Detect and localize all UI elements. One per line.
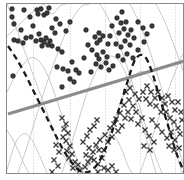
data-point-cross: [141, 90, 145, 94]
data-point-cross: [144, 97, 148, 101]
data-point-circle: [124, 20, 129, 25]
data-point-cross: [83, 165, 87, 169]
data-point-circle: [72, 80, 77, 85]
data-point-cross: [153, 96, 157, 100]
data-point-circle: [104, 61, 109, 66]
data-point-cross: [81, 140, 85, 144]
data-point-cross: [97, 148, 101, 152]
data-point-cross: [57, 150, 61, 154]
data-point-cross: [54, 143, 58, 147]
data-point-circle: [90, 48, 95, 53]
data-point-circle: [129, 28, 134, 33]
data-point-cross: [165, 136, 169, 140]
data-point-cross: [92, 124, 96, 128]
data-point-circle: [142, 40, 147, 45]
data-point-circle: [61, 67, 66, 72]
data-point-cross: [145, 84, 149, 88]
data-point-circle: [107, 68, 112, 73]
data-point-circle: [122, 27, 127, 32]
data-point-circle: [47, 6, 52, 11]
data-point-cross: [110, 164, 114, 168]
data-point-circle: [131, 56, 136, 61]
contour-curve-2: [7, 58, 84, 173]
data-point-cross: [148, 102, 152, 106]
data-point-circle: [36, 12, 41, 17]
data-point-circle: [120, 10, 125, 15]
data-point-cross: [120, 124, 124, 128]
data-point-circle: [16, 39, 21, 44]
data-point-circle: [105, 55, 110, 60]
data-point-circle: [128, 43, 133, 48]
data-point-circle: [99, 65, 104, 70]
data-point-cross: [95, 118, 99, 122]
data-point-circle: [12, 22, 17, 27]
data-point-cross: [167, 144, 171, 148]
data-point-circle: [34, 39, 39, 44]
data-point-circle: [141, 26, 146, 31]
data-point-cross: [122, 103, 126, 107]
data-point-circle: [101, 34, 106, 39]
data-point-circle: [119, 45, 124, 50]
data-point-cross: [170, 100, 174, 104]
data-point-circle: [11, 74, 16, 79]
data-point-cross: [127, 98, 131, 102]
data-point-circle: [10, 7, 15, 12]
data-point-circle: [119, 21, 124, 26]
data-point-circle: [45, 11, 50, 16]
data-point-cross: [129, 117, 133, 121]
data-point-cross: [149, 90, 153, 94]
data-point-cross: [134, 110, 138, 114]
data-point-circle: [125, 52, 130, 57]
data-point-circle: [132, 36, 137, 41]
data-point-circle: [22, 8, 27, 13]
data-point-circle: [121, 58, 126, 63]
data-point-cross: [131, 104, 135, 108]
data-point-cross: [85, 134, 89, 138]
data-point-cross: [176, 100, 180, 104]
data-point-circle: [39, 7, 44, 12]
data-point-circle: [101, 50, 106, 55]
data-point-circle: [94, 62, 99, 67]
data-point-cross: [136, 122, 140, 126]
data-point-circle: [117, 31, 122, 36]
data-point-circle: [58, 22, 63, 27]
data-point-circle: [40, 44, 45, 49]
data-point-circle: [145, 32, 150, 37]
data-point-cross: [152, 140, 156, 144]
data-point-circle: [28, 15, 33, 20]
data-point-circle: [31, 24, 36, 29]
scatter-plot-figure: [0, 0, 184, 180]
data-point-cross: [178, 132, 182, 136]
data-point-cross: [123, 116, 127, 120]
data-point-cross: [87, 146, 91, 150]
data-point-circle: [108, 34, 113, 39]
data-point-cross: [154, 104, 158, 108]
data-point-cross: [142, 144, 146, 148]
data-point-circle: [55, 65, 60, 70]
data-point-cross: [84, 153, 88, 157]
data-point-circle: [53, 31, 58, 36]
data-point-circle: [126, 33, 131, 38]
data-point-circle: [97, 57, 102, 62]
data-point-circle: [136, 20, 141, 25]
data-point-cross: [56, 164, 60, 168]
data-point-circle: [150, 24, 155, 29]
data-point-circle: [111, 64, 116, 69]
data-point-circle: [106, 42, 111, 47]
data-point-circle: [66, 69, 71, 74]
data-point-circle: [64, 29, 69, 34]
data-point-circle: [115, 16, 120, 21]
data-point-circle: [21, 41, 26, 46]
data-point-cross: [116, 129, 120, 133]
data-point-circle: [84, 28, 89, 33]
data-point-circle: [50, 44, 55, 49]
data-point-cross: [61, 135, 65, 139]
data-point-cross: [126, 110, 130, 114]
data-point-cross: [179, 110, 183, 114]
data-point-circle: [93, 35, 98, 40]
plot-canvas: [0, 0, 184, 180]
data-point-circle: [77, 71, 82, 76]
data-point-circle: [29, 35, 34, 40]
data-point-cross: [172, 120, 176, 124]
data-point-circle: [68, 20, 73, 25]
